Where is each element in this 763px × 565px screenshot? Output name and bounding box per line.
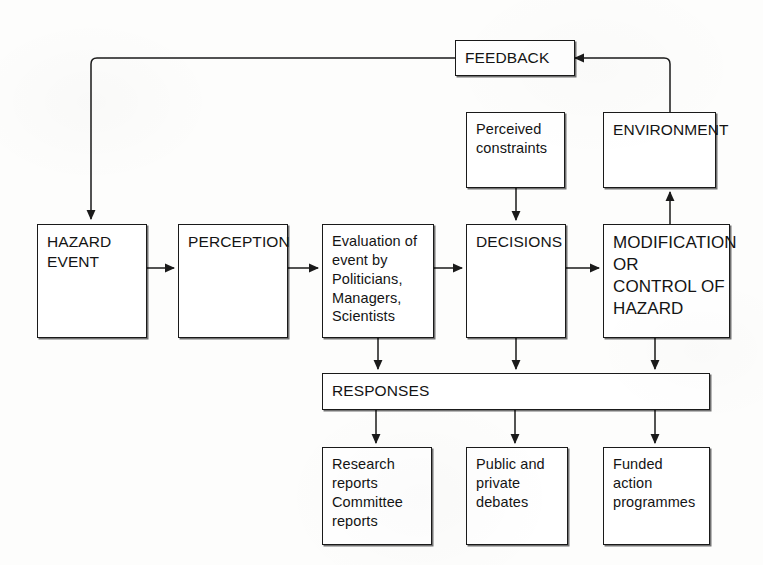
node-research-reports[interactable]: Research reports Committee reports (322, 447, 432, 545)
edge-feedback-to-hazard (91, 58, 455, 219)
node-environment-label: ENVIRONMENT (613, 120, 711, 140)
node-public-private-debates[interactable]: Public and private debates (466, 447, 568, 545)
node-research-reports-label: Research reports Committee reports (332, 455, 427, 530)
node-perception-label: PERCEPTION (188, 232, 283, 252)
node-feedback[interactable]: FEEDBACK (455, 40, 575, 76)
node-decisions[interactable]: DECISIONS (466, 224, 566, 338)
node-funded-action-programmes-label: Funded action programmes (613, 455, 705, 512)
node-perception[interactable]: PERCEPTION (178, 224, 288, 338)
node-funded-action-programmes[interactable]: Funded action programmes (603, 447, 710, 545)
flowchart-diagram: FEEDBACK ENVIRONMENT Perceived constrain… (0, 0, 763, 565)
node-decisions-label: DECISIONS (476, 232, 561, 252)
node-modification-or-control-label: MODIFICATION OR CONTROL OF HAZARD (613, 232, 725, 320)
node-responses-label: RESPONSES (332, 381, 705, 401)
node-evaluation-label: Evaluation of event by Politicians, Mana… (332, 232, 429, 326)
node-feedback-label: FEEDBACK (465, 48, 570, 68)
node-evaluation[interactable]: Evaluation of event by Politicians, Mana… (322, 224, 434, 338)
node-perceived-constraints[interactable]: Perceived constraints (466, 112, 565, 188)
edge-environment-to-feedback (575, 58, 670, 112)
node-perceived-constraints-label: Perceived constraints (476, 120, 560, 158)
node-responses[interactable]: RESPONSES (322, 373, 710, 410)
node-environment[interactable]: ENVIRONMENT (603, 112, 716, 188)
node-public-private-debates-label: Public and private debates (476, 455, 563, 512)
node-modification-or-control[interactable]: MODIFICATION OR CONTROL OF HAZARD (603, 224, 730, 338)
node-hazard-event[interactable]: HAZARD EVENT (37, 224, 147, 338)
node-hazard-event-label: HAZARD EVENT (47, 232, 142, 272)
